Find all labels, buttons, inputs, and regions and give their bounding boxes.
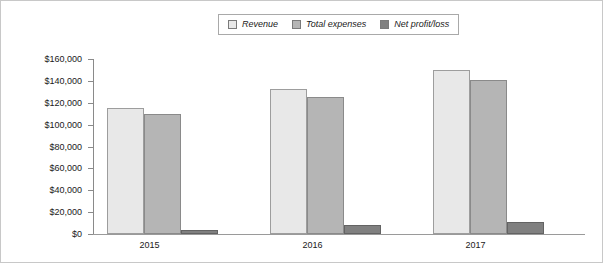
bar-2017-revenue (433, 70, 470, 234)
y-axis-tick-mark (88, 103, 93, 104)
chart-legend: RevenueTotal expensesNet profit/loss (218, 14, 459, 35)
y-axis-tick-mark (88, 147, 93, 148)
x-axis-line (93, 234, 585, 235)
legend-item-revenue[interactable]: Revenue (228, 20, 278, 29)
y-axis-tick-mark (88, 81, 93, 82)
bar-2017-total-expenses (470, 80, 507, 234)
bar-2015-total-expenses (144, 114, 181, 234)
plot-area (94, 59, 583, 234)
legend-swatch-icon (380, 20, 389, 29)
legend-item-net-profit-loss[interactable]: Net profit/loss (380, 20, 449, 29)
y-axis-tick-mark (88, 59, 93, 60)
y-axis-tick-label: $160,000 (44, 55, 82, 64)
y-axis-tick-label: $120,000 (44, 98, 82, 107)
y-axis-tick-label: $0 (72, 230, 82, 239)
y-axis-tick-label: $40,000 (49, 186, 82, 195)
y-axis-tick-mark (88, 125, 93, 126)
legend-label: Revenue (242, 20, 278, 29)
y-axis-tick-label: $140,000 (44, 76, 82, 85)
y-axis-tick-mark (88, 234, 93, 235)
y-axis-tick-mark (88, 190, 93, 191)
bar-2016-total-expenses (307, 97, 344, 234)
y-axis-tick-mark (88, 168, 93, 169)
bar-2015-revenue (107, 108, 144, 234)
x-axis-tick-label: 2017 (465, 241, 485, 250)
y-axis-tick-label: $100,000 (44, 120, 82, 129)
y-axis-tick-label: $80,000 (49, 142, 82, 151)
legend-item-total-expenses[interactable]: Total expenses (292, 20, 366, 29)
x-axis-tick-label: 2016 (302, 241, 322, 250)
bar-2015-net-profit-loss (181, 230, 218, 234)
legend-swatch-icon (292, 20, 301, 29)
bar-2017-net-profit-loss (507, 222, 544, 234)
y-axis-tick-mark (88, 212, 93, 213)
legend-swatch-icon (228, 20, 237, 29)
bar-chart-figure: RevenueTotal expensesNet profit/loss $0$… (0, 0, 603, 263)
bar-2016-revenue (270, 89, 307, 234)
y-axis-tick-label: $60,000 (49, 164, 82, 173)
legend-label: Net profit/loss (394, 20, 449, 29)
x-axis-tick-label: 2015 (139, 241, 159, 250)
bar-2016-net-profit-loss (344, 225, 381, 234)
legend-label: Total expenses (306, 20, 366, 29)
y-axis-tick-label: $20,000 (49, 208, 82, 217)
